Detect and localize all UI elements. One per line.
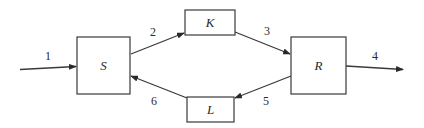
edge-1-label: 1: [45, 49, 51, 63]
edge-5-label: 5: [263, 94, 269, 108]
node-r-label: R: [314, 58, 323, 73]
node-r: R: [291, 37, 346, 94]
node-k: K: [185, 10, 235, 35]
node-l: L: [187, 97, 234, 122]
edge-3-arrow: [235, 32, 290, 54]
edge-4-label: 4: [372, 49, 378, 63]
edge-2-label: 2: [150, 25, 156, 39]
node-s-label: S: [100, 58, 107, 73]
flow-diagram: S K R L 1 2 3 4 5 6: [0, 0, 424, 128]
edge-6-arrow: [131, 76, 187, 98]
node-s: S: [77, 37, 130, 94]
node-l-label: L: [206, 102, 214, 117]
edge-2-arrow: [131, 33, 184, 54]
edge-6-label: 6: [151, 94, 157, 108]
node-k-label: K: [205, 15, 216, 30]
edge-1-arrow: [20, 67, 76, 70]
edge-4-arrow: [346, 66, 403, 70]
edge-3-label: 3: [264, 24, 270, 38]
